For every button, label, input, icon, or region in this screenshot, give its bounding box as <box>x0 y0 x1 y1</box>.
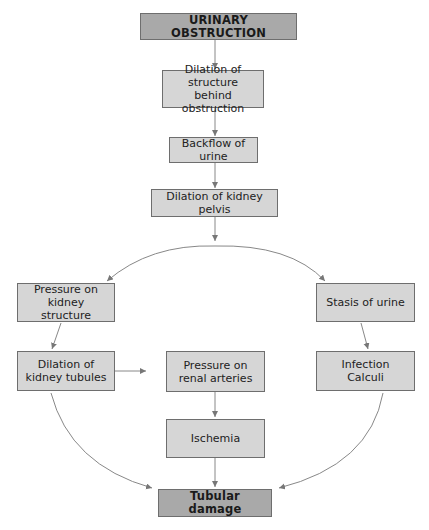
node-dilation-pelvis: Dilation of kidney pelvis <box>151 189 278 217</box>
arrow-tubules-to-damage <box>51 393 152 488</box>
node-label: Pressure on renal arteries <box>179 359 253 385</box>
node-label: Pressure on kidney structure <box>21 283 111 322</box>
node-ischemia: Ischemia <box>166 419 265 458</box>
node-label: Tubular damage <box>162 490 268 516</box>
node-label: Dilation of kidney tubules <box>26 358 107 384</box>
arrow-to-pressure-structure <box>107 246 215 281</box>
node-pressure-arteries: Pressure on renal arteries <box>166 351 265 392</box>
node-label: Stasis of urine <box>326 296 404 309</box>
node-dilation-structure: Dilation of structure behind obstruction <box>162 70 264 108</box>
node-stasis-urine: Stasis of urine <box>316 283 415 322</box>
node-label: Dilation of structure behind obstruction <box>166 63 260 115</box>
node-infection-calculi: Infection Calculi <box>316 351 415 391</box>
node-label: Infection Calculi <box>342 358 390 384</box>
node-pressure-structure: Pressure on kidney structure <box>17 283 115 322</box>
node-label: Dilation of kidney pelvis <box>155 190 274 216</box>
node-dilation-tubules: Dilation of kidney tubules <box>17 351 115 391</box>
node-label: URINARY OBSTRUCTION <box>144 14 293 40</box>
node-tubular-damage: Tubular damage <box>158 489 272 517</box>
node-label: Backflow of urine <box>173 137 254 163</box>
arrow-stasis-to-infection <box>361 323 368 349</box>
node-label: Ischemia <box>191 432 240 445</box>
node-urinary-obstruction: URINARY OBSTRUCTION <box>140 13 297 40</box>
node-backflow-urine: Backflow of urine <box>169 137 258 163</box>
arrow-infection-to-damage <box>279 393 383 488</box>
arrow-to-stasis <box>215 246 325 281</box>
flow-diagram: URINARY OBSTRUCTION Dilation of structur… <box>0 0 429 530</box>
arrow-pressure-to-tubules <box>52 323 61 349</box>
